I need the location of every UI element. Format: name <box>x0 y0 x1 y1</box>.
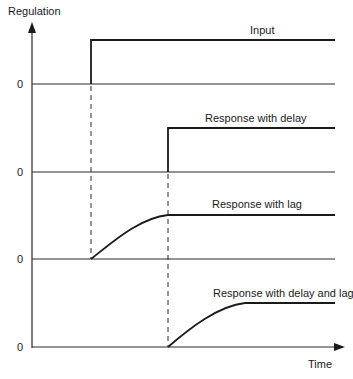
zero-label-delay-lag: 0 <box>17 341 23 353</box>
input-label: Input <box>250 24 274 36</box>
delay-lag-label: Response with delay and lag <box>213 287 353 299</box>
lag-signal <box>91 215 335 259</box>
control-response-diagram: Regulation Time 0 0 0 0 Input Response w… <box>0 0 353 379</box>
zero-label-lag: 0 <box>17 253 23 265</box>
zero-label-delay: 0 <box>17 166 23 178</box>
delay-label: Response with delay <box>205 112 307 124</box>
input-signal <box>91 40 335 84</box>
zero-label-input: 0 <box>17 78 23 90</box>
x-axis-label: Time <box>308 358 332 370</box>
y-axis-arrow-icon <box>28 22 36 33</box>
lag-label: Response with lag <box>212 198 302 210</box>
y-axis-label: Regulation <box>8 5 61 17</box>
x-axis-arrow-icon <box>334 343 345 351</box>
delay-signal <box>168 128 335 172</box>
delay-lag-signal <box>168 303 335 347</box>
